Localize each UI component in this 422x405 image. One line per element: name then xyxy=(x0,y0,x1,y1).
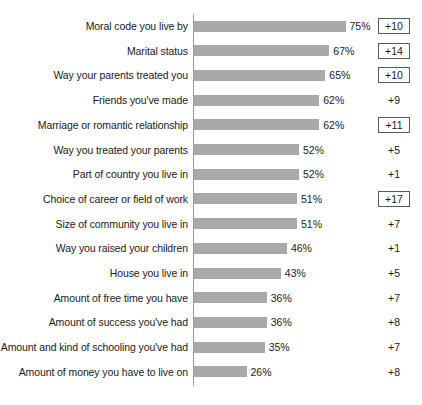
bar xyxy=(194,218,297,229)
bar xyxy=(194,292,267,303)
category-label: Way you raised your children xyxy=(0,236,188,260)
bar xyxy=(194,169,299,180)
bar-value-label: 62% xyxy=(323,88,344,112)
change-value: +7 xyxy=(378,339,410,355)
bar-value-label: 43% xyxy=(285,261,306,285)
bar-value-label: 52% xyxy=(303,138,324,162)
bar-chart: Moral code you live by75%+10Marital stat… xyxy=(0,0,422,405)
category-label: Choice of career or field of work xyxy=(0,187,188,211)
bar xyxy=(194,144,299,155)
bar-value-label: 51% xyxy=(301,187,322,211)
category-label: House you live in xyxy=(0,261,188,285)
change-value: +1 xyxy=(378,166,410,182)
bar-value-label: 52% xyxy=(303,162,324,186)
category-label: Amount of success you've had xyxy=(0,310,188,334)
bar-row: Amount of success you've had36%+8 xyxy=(0,310,422,334)
bar-row: Way your parents treated you65%+10 xyxy=(0,63,422,87)
bar-value-label: 36% xyxy=(271,310,292,334)
bar xyxy=(194,268,281,279)
category-label: Way your parents treated you xyxy=(0,63,188,87)
change-value: +8 xyxy=(378,364,410,380)
category-label: Marital status xyxy=(0,39,188,63)
bar-value-label: 75% xyxy=(350,14,371,38)
bar-row: Size of community you live in51%+7 xyxy=(0,212,422,236)
bar-value-label: 36% xyxy=(271,286,292,310)
change-value: +8 xyxy=(378,314,410,330)
bar xyxy=(194,21,346,32)
change-value: +7 xyxy=(378,290,410,306)
bar-row: House you live in43%+5 xyxy=(0,261,422,285)
bar-value-label: 65% xyxy=(329,63,350,87)
bar xyxy=(194,119,319,130)
change-value: +10 xyxy=(378,18,410,34)
change-value: +5 xyxy=(378,265,410,281)
bar xyxy=(194,70,325,81)
bar xyxy=(194,317,267,328)
bar-row: Marital status67%+14 xyxy=(0,39,422,63)
bar-row: Amount of free time you have36%+7 xyxy=(0,286,422,310)
bar-row: Part of country you live in52%+1 xyxy=(0,162,422,186)
bar-row: Amount of money you have to live on26%+8 xyxy=(0,360,422,384)
category-label: Moral code you live by xyxy=(0,14,188,38)
change-value: +11 xyxy=(378,117,410,133)
change-value: +5 xyxy=(378,142,410,158)
bar-value-label: 67% xyxy=(333,39,354,63)
category-label: Way you treated your parents xyxy=(0,138,188,162)
bar-value-label: 62% xyxy=(323,113,344,137)
change-value: +14 xyxy=(378,43,410,59)
category-label: Amount of money you have to live on xyxy=(0,360,188,384)
bar-row: Choice of career or field of work51%+17 xyxy=(0,187,422,211)
change-value: +10 xyxy=(378,67,410,83)
bar xyxy=(194,243,287,254)
category-label: Size of community you live in xyxy=(0,212,188,236)
bar-row: Friends you've made62%+9 xyxy=(0,88,422,112)
bar xyxy=(194,342,265,353)
change-value: +9 xyxy=(378,92,410,108)
bar-value-label: 51% xyxy=(301,212,322,236)
bar-row: Way you treated your parents52%+5 xyxy=(0,138,422,162)
bar xyxy=(194,193,297,204)
bar xyxy=(194,95,319,106)
bar xyxy=(194,366,247,377)
bar-row: Way you raised your children46%+1 xyxy=(0,236,422,260)
bar-row: Moral code you live by75%+10 xyxy=(0,14,422,38)
change-value: +7 xyxy=(378,216,410,232)
change-value: +1 xyxy=(378,240,410,256)
change-value: +17 xyxy=(378,191,410,207)
category-label: Part of country you live in xyxy=(0,162,188,186)
bar-row: Marriage or romantic relationship62%+11 xyxy=(0,113,422,137)
bar-value-label: 35% xyxy=(269,335,290,359)
bar-row: Amount and kind of schooling you've had3… xyxy=(0,335,422,359)
bar-rows-container: Moral code you live by75%+10Marital stat… xyxy=(0,0,422,405)
category-label: Amount of free time you have xyxy=(0,286,188,310)
bar-value-label: 26% xyxy=(251,360,272,384)
category-label: Marriage or romantic relationship xyxy=(0,113,188,137)
bar xyxy=(194,45,329,56)
category-label: Friends you've made xyxy=(0,88,188,112)
bar-value-label: 46% xyxy=(291,236,312,260)
category-label: Amount and kind of schooling you've had xyxy=(0,335,188,359)
